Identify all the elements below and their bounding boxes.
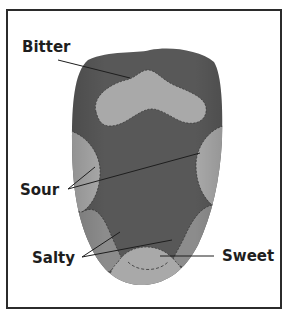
label-sour: Sour <box>20 181 59 199</box>
tongue <box>60 40 240 300</box>
label-sweet: Sweet <box>222 247 274 265</box>
label-salty: Salty <box>32 249 75 267</box>
label-bitter: Bitter <box>22 38 71 56</box>
